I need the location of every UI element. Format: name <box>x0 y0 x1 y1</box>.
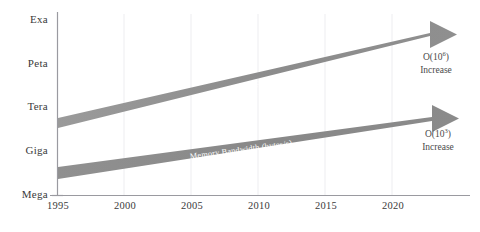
y-tick-label-tera: Tera <box>2 100 48 112</box>
annotation-upper-order-line: O(106) <box>396 51 476 64</box>
x-tick-label-2005: 2005 <box>169 200 215 211</box>
chart-plot-area <box>0 0 480 232</box>
x-tick-label-2000: 2000 <box>102 200 148 211</box>
chart-container: Exa Peta Tera Giga Mega 1995 2000 2005 2… <box>0 0 480 232</box>
annotation-lower-suffix: ) <box>448 129 451 139</box>
annotation-lower-order-line: O(103) <box>398 128 478 141</box>
annotation-lower-prefix: O(10 <box>425 129 445 139</box>
annotation-upper-word: Increase <box>396 64 476 77</box>
y-tick-label-exa: Exa <box>2 13 48 25</box>
y-tick-label-peta: Peta <box>2 57 48 69</box>
x-tick-label-2015: 2015 <box>303 200 349 211</box>
annotation-lower-word: Increase <box>398 141 478 154</box>
annotation-computer-power-growth: O(106) Increase <box>396 51 476 77</box>
x-tick-label-1995: 1995 <box>35 200 81 211</box>
annotation-upper-prefix: O(10 <box>423 52 443 62</box>
annotation-upper-suffix: ) <box>446 52 449 62</box>
gridlines <box>124 14 392 196</box>
x-tick-label-2020: 2020 <box>370 200 416 211</box>
x-tick-label-2010: 2010 <box>236 200 282 211</box>
y-tick-label-giga: Giga <box>2 144 48 156</box>
y-tick-label-mega: Mega <box>2 188 48 200</box>
annotation-memory-bandwidth-growth: O(103) Increase <box>398 128 478 154</box>
